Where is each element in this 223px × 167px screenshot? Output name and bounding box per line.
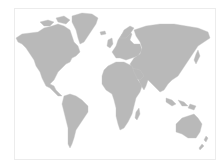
region-indonesia[interactable] — [166, 98, 196, 110]
region-japan[interactable] — [194, 50, 200, 64]
region-madagascar[interactable] — [135, 108, 140, 120]
region-australia[interactable] — [176, 114, 202, 138]
world-map — [0, 0, 223, 167]
region-greenland[interactable] — [72, 13, 98, 44]
region-south-america[interactable] — [62, 94, 88, 148]
region-new-zealand[interactable] — [199, 136, 208, 150]
region-scandinavia[interactable] — [120, 26, 134, 38]
region-uk[interactable] — [107, 38, 113, 48]
region-arctic-islands[interactable] — [40, 16, 70, 26]
region-iceland[interactable] — [100, 31, 106, 35]
region-north-america[interactable] — [16, 24, 80, 96]
